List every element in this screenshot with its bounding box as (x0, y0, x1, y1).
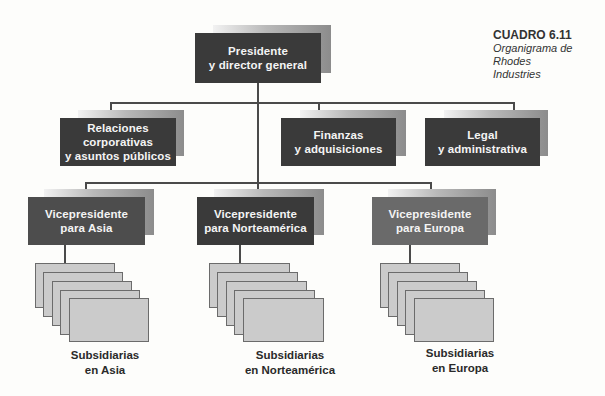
staff-box-legal: Legal y administrativa (425, 118, 540, 166)
relaciones-line3: y asuntos públicos (65, 149, 171, 163)
caption-title-line1: Organigrama de Rhodes (493, 42, 605, 68)
sub-europa-line1: Subsidiarias (405, 346, 515, 361)
sub-asia-line2: en Asia (50, 363, 160, 378)
sub-europa-line2: en Europa (405, 361, 515, 376)
vp-asia-line1: Vicepresidente (45, 207, 128, 221)
vp-norte-line2: para Norteamérica (204, 221, 307, 235)
vp-box-norteamerica: Vicepresidente para Norteamérica (197, 197, 314, 245)
relaciones-line1: Relaciones (65, 121, 171, 135)
vp-box-asia: Vicepresidente para Asia (28, 197, 145, 245)
vp-europa-line2: para Europa (388, 221, 471, 235)
connector-president-down (257, 82, 259, 182)
connector-sub-norte (239, 245, 241, 264)
subsidiary-label-europa: Subsidiarias en Europa (405, 346, 515, 376)
connector-staff-bar (110, 102, 514, 104)
subsidiary-card (414, 298, 494, 342)
vp-europa-line1: Vicepresidente (388, 207, 471, 221)
caption-number: CUADRO 6.11 (493, 28, 605, 42)
president-line1: Presidente (209, 44, 307, 58)
legal-line1: Legal (438, 128, 527, 142)
caption-title-line2: Industries (493, 68, 605, 81)
connector-sub-europa (409, 245, 411, 264)
staff-box-finanzas: Finanzas y adquisiciones (281, 118, 396, 166)
subsidiary-card (243, 298, 324, 342)
figure-caption: CUADRO 6.11 Organigrama de Rhodes Indust… (493, 28, 605, 81)
subsidiary-label-asia: Subsidiarias en Asia (50, 348, 160, 378)
finanzas-line2: y adquisiciones (295, 142, 383, 156)
subsidiary-card (69, 298, 149, 342)
vp-asia-line2: para Asia (45, 221, 128, 235)
relaciones-line2: corporativas (65, 135, 171, 149)
subsidiary-label-norteamerica: Subsidiarias en Norteamérica (230, 348, 350, 378)
sub-norte-line2: en Norteamérica (230, 363, 350, 378)
president-line2: y director general (209, 58, 307, 72)
vp-box-europa: Vicepresidente para Europa (372, 197, 488, 245)
legal-line2: y administrativa (438, 142, 527, 156)
sub-asia-line1: Subsidiarias (50, 348, 160, 363)
president-box: Presidente y director general (195, 33, 321, 83)
sub-norte-line1: Subsidiarias (230, 348, 350, 363)
vp-norte-line1: Vicepresidente (204, 207, 307, 221)
staff-box-relaciones: Relaciones corporativas y asuntos públic… (60, 118, 176, 166)
finanzas-line1: Finanzas (295, 128, 383, 142)
connector-sub-asia (64, 245, 66, 264)
